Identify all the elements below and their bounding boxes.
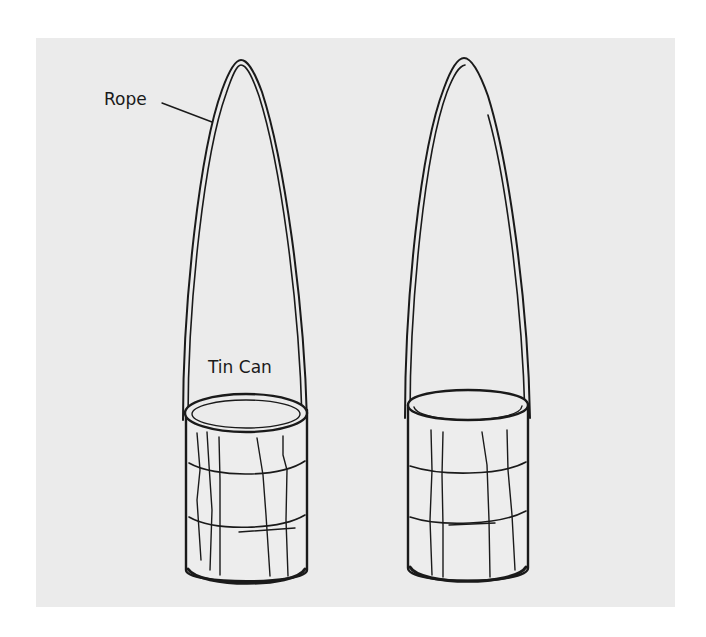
tin-can-label: Tin Can	[208, 357, 272, 377]
rope-leader-line	[162, 103, 212, 122]
right-rope	[405, 58, 530, 418]
left-tin-can	[185, 394, 307, 583]
rope-label: Rope	[104, 89, 147, 109]
right-tin-can	[408, 390, 528, 581]
